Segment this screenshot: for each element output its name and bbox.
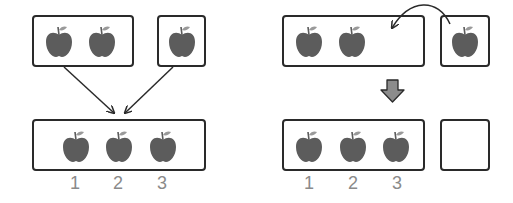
arrow-left-to-combined — [64, 67, 114, 113]
curved-move-arrow — [392, 5, 450, 28]
arrows-overlay — [0, 0, 513, 203]
down-arrow-icon — [381, 80, 404, 102]
arrow-right-to-combined — [125, 67, 173, 113]
